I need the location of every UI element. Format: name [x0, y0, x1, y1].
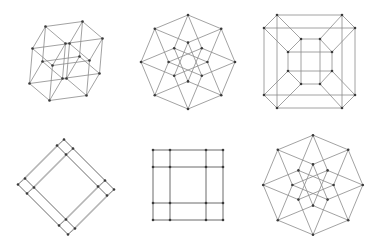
- vertex-dot: [312, 163, 315, 166]
- vertex-dot: [319, 38, 322, 41]
- vertex-dot: [312, 134, 315, 137]
- vertex-dot: [354, 27, 357, 30]
- vertex-dot: [104, 179, 107, 182]
- edge: [264, 71, 288, 95]
- vertex-dot: [154, 94, 157, 97]
- vertex-dot: [300, 38, 303, 41]
- vertex-dot: [201, 47, 204, 50]
- vertex-dot: [263, 27, 266, 30]
- edge: [63, 44, 66, 79]
- vertex-dot: [63, 138, 66, 141]
- vertex-dot: [354, 94, 357, 97]
- edge: [50, 66, 53, 101]
- vertex-dot: [85, 94, 88, 97]
- edge: [66, 155, 107, 196]
- vertex-dot: [41, 60, 44, 63]
- edge: [320, 15, 342, 39]
- vertex-dot: [205, 202, 208, 205]
- vertex-dot: [347, 149, 350, 152]
- vertex-dot: [263, 94, 266, 97]
- vertex-dot: [78, 55, 81, 58]
- vertex-dot: [326, 169, 329, 172]
- vertex-dot: [106, 194, 109, 197]
- edge: [18, 185, 27, 194]
- vertex-dot: [56, 144, 59, 147]
- vertex-dot: [205, 219, 208, 222]
- vertex-dot: [331, 51, 334, 54]
- vertex-dot: [154, 28, 157, 31]
- vertex-dot: [169, 149, 172, 152]
- tesseract-projection-hexadecagon-grid: [152, 149, 225, 222]
- vertex-dot: [319, 83, 322, 86]
- edge: [30, 84, 50, 101]
- vertex-dot: [65, 218, 68, 221]
- edge: [264, 95, 277, 108]
- vertex-dot: [206, 61, 209, 64]
- vertex-dot: [312, 204, 315, 207]
- edge: [80, 22, 83, 57]
- vertex-dot: [332, 184, 335, 187]
- vertex-dot: [187, 14, 190, 17]
- edge: [320, 71, 332, 84]
- vertex-dot: [341, 107, 344, 110]
- edge: [288, 71, 301, 84]
- edge: [87, 61, 90, 96]
- edge: [66, 149, 73, 155]
- vertex-dot: [152, 202, 155, 205]
- vertex-dot: [88, 59, 91, 62]
- vertex-dot: [341, 14, 344, 17]
- vertex-dot: [152, 149, 155, 152]
- vertex-dot: [72, 147, 75, 150]
- edge: [288, 39, 301, 52]
- vertex-dot: [140, 61, 143, 64]
- vertex-dot: [44, 25, 47, 28]
- vertex-dot: [362, 184, 365, 187]
- edge: [50, 96, 87, 101]
- edge: [73, 149, 114, 190]
- vertex-dot: [297, 169, 300, 172]
- edge: [67, 44, 70, 79]
- edge: [53, 61, 90, 66]
- vertex-dot: [169, 202, 172, 205]
- edge: [320, 84, 342, 108]
- vertex-dot: [152, 219, 155, 222]
- edge: [57, 140, 64, 146]
- edge: [33, 49, 53, 66]
- vertex-dot: [173, 47, 176, 50]
- edge: [57, 146, 66, 155]
- vertex-dot: [347, 219, 350, 222]
- vertex-dot: [31, 47, 34, 50]
- edge: [342, 15, 355, 28]
- vertex-dot: [24, 177, 27, 180]
- vertex-dot: [220, 94, 223, 97]
- vertex-dot: [58, 224, 61, 227]
- edge: [264, 15, 277, 28]
- vertex-dot: [173, 75, 176, 78]
- vertex-dot: [28, 82, 31, 85]
- edge: [67, 79, 87, 96]
- vertex-dot: [167, 61, 170, 64]
- vertex-dot: [67, 233, 70, 236]
- edge: [34, 188, 75, 229]
- edge: [43, 27, 46, 62]
- tesseract-projection-cube-in-cube: [263, 14, 357, 110]
- vertex-dot: [222, 166, 225, 169]
- vertex-dot: [300, 83, 303, 86]
- vertex-dot: [277, 219, 280, 222]
- edge: [277, 15, 301, 39]
- vertex-dot: [187, 80, 190, 83]
- vertex-dot: [169, 166, 172, 169]
- vertex-dot: [276, 107, 279, 110]
- vertex-dot: [277, 149, 280, 152]
- vertex-dot: [276, 14, 279, 17]
- vertex-dot: [113, 188, 116, 191]
- vertex-dot: [101, 37, 104, 40]
- edge: [98, 181, 105, 187]
- vertex-dot: [152, 166, 155, 169]
- vertex-dot: [205, 166, 208, 169]
- vertex-dot: [48, 99, 51, 102]
- vertex-dot: [287, 70, 290, 73]
- tesseract-projection-hexadecagon-star: [262, 134, 364, 236]
- edge: [70, 44, 90, 61]
- edge: [43, 57, 80, 62]
